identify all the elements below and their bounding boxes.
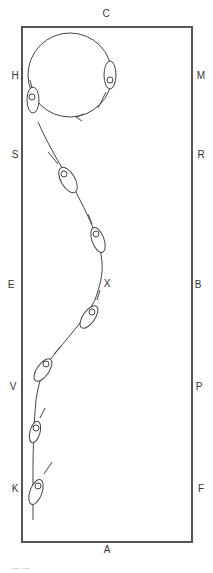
arena-letter-f: F <box>198 484 204 494</box>
arena-letter-s: S <box>12 150 19 160</box>
arena-letter-k: K <box>12 484 19 494</box>
arena-letter-c: C <box>102 9 109 19</box>
arena-letter-v: V <box>10 382 17 392</box>
arena-letter-r: R <box>197 150 204 160</box>
arena-letter-e: E <box>8 280 15 290</box>
arena-letter-x: X <box>104 279 111 289</box>
arena-letter-a: A <box>104 545 111 555</box>
arena-letter-b: B <box>195 280 202 290</box>
arena-letter-h: H <box>11 71 18 81</box>
arena-letter-p: P <box>196 382 203 392</box>
horse-rider-icon <box>26 61 116 506</box>
arena-letter-m: M <box>197 71 205 81</box>
figure-caption: — — <box>12 563 30 572</box>
